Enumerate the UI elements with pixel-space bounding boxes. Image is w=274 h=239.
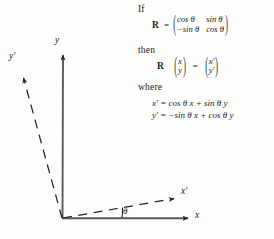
y-prime-axis-label: y′ (9, 51, 15, 61)
theta-label: θ (123, 206, 127, 216)
y-axis-label: y (55, 35, 59, 45)
output-vector-y-prime: y′ (209, 66, 215, 75)
matrix-right-paren: ) (225, 13, 228, 36)
input-vector-left-paren: ( (174, 55, 177, 78)
output-vector-left-paren: ( (205, 55, 208, 78)
output-vector: x′ y′ (209, 57, 215, 76)
rotation-figure: y x x′ y′ θ If R = ( cos θ sin θ −sin θ … (0, 0, 274, 239)
where-keyword: where (138, 82, 162, 92)
expansion-line-x-prime: x′ = cos θ x + sin θ y (152, 98, 234, 110)
x-axis-label: x (195, 210, 199, 220)
matrix-equation: R = ( cos θ sin θ −sin θ cos θ ) (152, 15, 229, 34)
input-vector-y: y (178, 66, 182, 75)
output-vector-right-paren: ) (216, 55, 219, 78)
matrix-left-paren: ( (173, 13, 176, 36)
matrix-cell-r1c0: −sin θ (177, 25, 199, 35)
vector-symbol-R: R (157, 61, 173, 71)
matrix-equals: = (161, 20, 172, 30)
y-axis-line (63, 55, 64, 218)
y-prime-axis-line (24, 78, 63, 218)
expansion-equations: x′ = cos θ x + sin θ y y′ = −sin θ x + c… (152, 98, 234, 121)
vector-equation: R ( x y ) = ( x′ y′ ) (157, 57, 219, 76)
input-vector-right-paren: ) (183, 55, 186, 78)
matrix-cell-r1c1: cos θ (206, 25, 224, 35)
x-prime-axis-label: x′ (181, 186, 187, 196)
if-keyword: If (138, 4, 145, 14)
vector-equals: = (187, 61, 204, 71)
input-vector: x y (178, 57, 182, 76)
expansion-line-y-prime: y′ = −sin θ x + cos θ y (152, 110, 234, 122)
matrix-symbol-R: R (152, 20, 161, 30)
x-prime-axis-line (63, 199, 174, 218)
matrix-entries: cos θ sin θ −sin θ cos θ (177, 15, 224, 34)
then-keyword: then (138, 45, 155, 55)
